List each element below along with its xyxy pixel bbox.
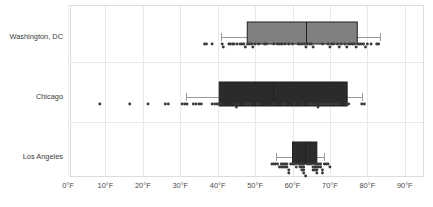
x-tick-label-50: 50°F	[247, 181, 263, 190]
data-point	[317, 106, 320, 109]
x-tick-label-40: 40°F	[210, 181, 226, 190]
data-point	[338, 46, 341, 49]
data-point	[347, 103, 350, 106]
data-point	[211, 43, 214, 46]
category-label-0: Washington, DC	[9, 32, 63, 41]
data-point	[337, 103, 340, 106]
data-point	[345, 46, 348, 49]
data-point	[147, 103, 150, 106]
data-point	[291, 43, 294, 46]
category-axis-labels: Washington, DCChicagoLos Angeles	[9, 32, 63, 161]
data-point	[327, 163, 330, 166]
data-point	[265, 43, 268, 46]
data-point	[287, 172, 290, 175]
data-point	[370, 43, 373, 46]
data-point	[328, 166, 331, 169]
data-point	[128, 103, 131, 106]
x-tick-label-0: 0°F	[62, 181, 74, 190]
data-point	[310, 163, 313, 166]
data-point	[186, 103, 189, 106]
data-point	[340, 43, 343, 46]
box-plot-chart: 0°F10°F20°F30°F40°F50°F60°F70°F80°F90°F …	[0, 0, 433, 207]
data-point	[300, 103, 303, 106]
data-point	[272, 103, 275, 106]
data-point	[221, 43, 224, 46]
data-point	[284, 103, 287, 106]
data-point	[254, 43, 257, 46]
data-point	[222, 46, 225, 49]
x-tick-label-60: 60°F	[285, 181, 301, 190]
data-point	[319, 163, 322, 166]
data-point	[284, 43, 287, 46]
data-point	[195, 103, 198, 106]
data-point	[321, 43, 324, 46]
data-point	[343, 43, 346, 46]
data-point	[233, 43, 236, 46]
data-point	[321, 169, 324, 172]
data-point	[236, 103, 239, 106]
x-tick-label-30: 30°F	[172, 181, 188, 190]
data-point	[336, 43, 339, 46]
data-point	[282, 103, 285, 106]
chart-canvas: 0°F10°F20°F30°F40°F50°F60°F70°F80°F90°F …	[0, 0, 433, 207]
data-point	[293, 103, 296, 106]
data-point	[302, 166, 305, 169]
data-point	[285, 166, 288, 169]
data-point	[310, 43, 313, 46]
data-point	[164, 103, 167, 106]
category-label-2: Los Angeles	[23, 152, 64, 161]
data-point	[303, 43, 306, 46]
data-point	[285, 163, 288, 166]
data-point	[315, 172, 318, 175]
data-point	[302, 172, 305, 175]
data-point	[276, 163, 279, 166]
x-tick-label-70: 70°F	[322, 181, 338, 190]
x-tick-label-10: 10°F	[98, 181, 114, 190]
data-point	[332, 43, 335, 46]
data-point	[353, 43, 356, 46]
data-point	[257, 43, 260, 46]
data-point	[302, 169, 305, 172]
data-point	[287, 43, 290, 46]
x-tick-label-90: 90°F	[397, 181, 413, 190]
data-point	[305, 46, 308, 49]
data-point	[314, 103, 317, 106]
data-point	[167, 103, 170, 106]
box-iqr	[219, 82, 347, 106]
data-point	[200, 103, 203, 106]
data-point	[364, 46, 367, 49]
data-point	[235, 106, 238, 109]
data-point	[312, 46, 315, 49]
data-point	[287, 169, 290, 172]
x-tick-label-80: 80°F	[360, 181, 376, 190]
data-point	[242, 43, 245, 46]
data-point	[315, 169, 318, 172]
data-point	[362, 43, 365, 46]
data-point	[250, 43, 253, 46]
box-iqr	[293, 142, 317, 164]
data-point	[251, 46, 254, 49]
x-axis-tick-labels: 0°F10°F20°F30°F40°F50°F60°F70°F80°F90°F	[62, 181, 413, 190]
data-point	[319, 166, 322, 169]
data-point	[281, 43, 284, 46]
data-point	[328, 46, 331, 49]
data-point	[366, 43, 369, 46]
data-point	[377, 43, 380, 46]
data-point	[181, 103, 184, 106]
data-point	[257, 103, 260, 106]
data-point	[236, 43, 239, 46]
box-iqr	[247, 22, 357, 44]
data-point	[249, 103, 252, 106]
data-point	[205, 43, 208, 46]
data-point	[244, 46, 247, 49]
category-label-1: Chicago	[36, 92, 63, 101]
data-point	[272, 43, 275, 46]
data-point	[355, 46, 358, 49]
x-tick-label-20: 20°F	[135, 181, 151, 190]
data-point	[192, 103, 195, 106]
data-point	[295, 166, 298, 169]
data-point	[327, 43, 330, 46]
data-point	[244, 103, 247, 106]
data-point	[321, 172, 324, 175]
data-point	[304, 175, 307, 178]
